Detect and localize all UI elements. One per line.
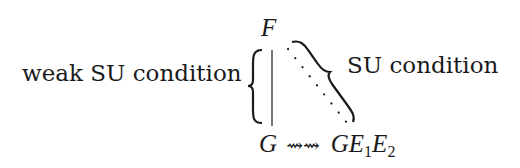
diagram-lines xyxy=(0,0,520,168)
right-curly-brace-icon xyxy=(292,41,354,122)
dotted-diagonal-edge xyxy=(288,49,347,123)
left-curly-brace-icon xyxy=(248,50,262,123)
